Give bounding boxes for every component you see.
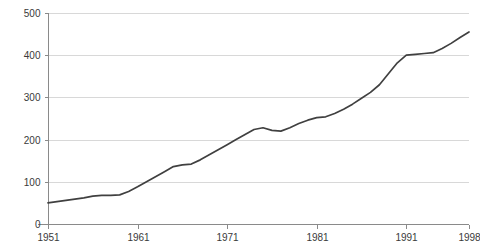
y-tick-label: 0: [35, 219, 41, 230]
x-tick-label: 1961: [127, 232, 150, 243]
x-tick-label: 1991: [395, 232, 418, 243]
line-chart: 0100200300400500 19511961197119811991199…: [0, 0, 480, 250]
chart-container: 0100200300400500 19511961197119811991199…: [0, 0, 480, 250]
x-tick-label: 1981: [306, 232, 329, 243]
data-series-group: [48, 32, 469, 203]
y-tick-label: 200: [24, 135, 41, 146]
axes: [38, 14, 469, 225]
x-tick-label: 1951: [37, 232, 60, 243]
y-tick-label: 100: [24, 177, 41, 188]
y-tick-label: 300: [24, 92, 41, 103]
y-tick-label: 500: [24, 8, 41, 19]
x-tick-label: 1971: [216, 232, 239, 243]
x-axis-tick-labels: 195119611971198119911998: [37, 232, 480, 243]
gridlines: [48, 14, 469, 183]
x-tick-label: 1998: [458, 232, 480, 243]
y-axis-tick-labels: 0100200300400500: [24, 8, 41, 230]
tick-marks: [45, 14, 470, 229]
data-line: [48, 32, 469, 203]
y-tick-label: 400: [24, 50, 41, 61]
